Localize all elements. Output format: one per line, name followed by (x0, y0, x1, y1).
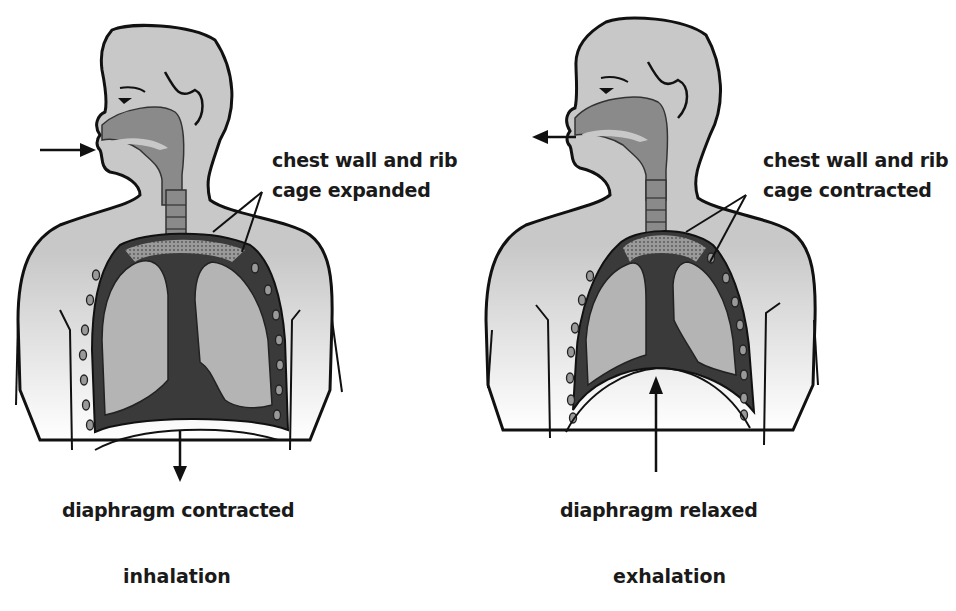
caption-inhalation: inhalation (123, 565, 231, 587)
diaphragm-label: diaphragm relaxed (560, 495, 758, 525)
chest-wall-label: chest wall and rib cage contracted (763, 145, 948, 205)
diaphragm-label: diaphragm contracted (62, 495, 294, 525)
chest-label-line2: cage expanded (272, 175, 457, 205)
chest-label-line1: chest wall and rib (763, 145, 948, 175)
chest-label-line2: cage contracted (763, 175, 948, 205)
body-edge-left (16, 320, 18, 405)
caption-exhalation: exhalation (613, 565, 726, 587)
body-edge-right (332, 320, 342, 392)
inhalation-figure: chest wall and rib cage expanded diaphra… (0, 0, 478, 611)
chest-wall-label: chest wall and rib cage expanded (272, 145, 457, 205)
exhalation-figure: chest wall and rib cage contracted diaph… (478, 0, 956, 611)
chest-label-line1: chest wall and rib (272, 145, 457, 175)
arrow-into-mouth-icon (40, 143, 96, 157)
